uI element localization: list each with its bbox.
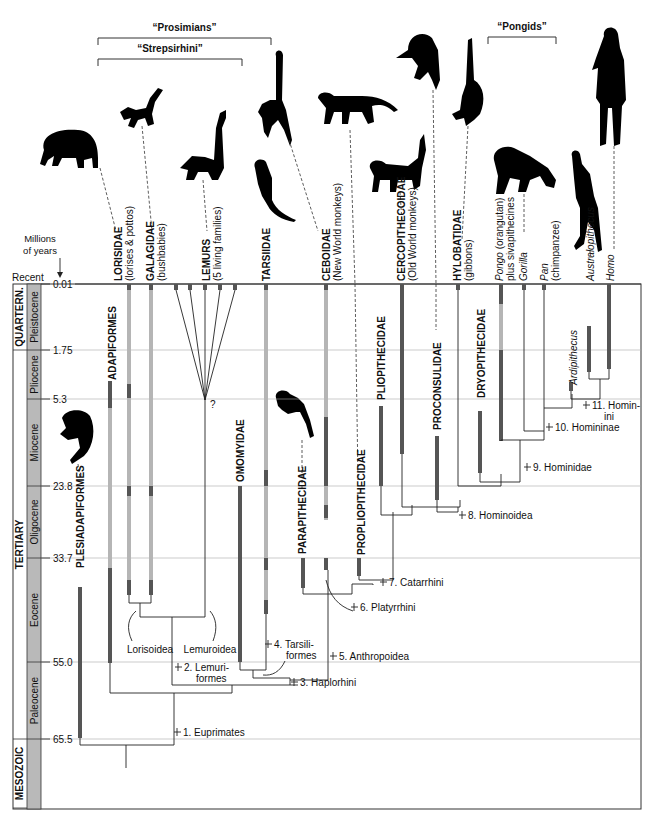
epoch-label: Eocene — [29, 593, 40, 627]
taxon-label: TARSIIDAE — [261, 228, 272, 281]
recent-label: Recent — [12, 272, 44, 283]
plesiadapiform-silhouette — [60, 410, 93, 464]
tick-label: 65.5 — [53, 734, 73, 745]
superfamily-labels: LorisoideaLemuroidea — [127, 644, 237, 655]
taxon-label: PROPLIOPITHECIDAE — [356, 449, 367, 555]
clade-label-cont: formes — [286, 650, 317, 661]
clade-label-cont: formes — [196, 673, 227, 684]
superfamily-label: Lemuroidea — [184, 644, 237, 655]
taxon-label: Pongo (orangutan)plus sivapithecines — [494, 197, 516, 281]
chimpanzee-silhouette — [494, 147, 556, 194]
axis-title: Millions — [24, 233, 56, 244]
taxon-label: Homo — [605, 254, 616, 281]
silhouette-connectors — [78, 90, 614, 488]
tarsier-silhouette — [254, 160, 296, 222]
taxon-label: Ardipithecus — [568, 330, 579, 386]
phylogenetic-tree — [80, 290, 609, 768]
tick-label: 55.0 — [53, 657, 73, 668]
new-world-monkey-silhouette — [318, 92, 398, 124]
epoch-label: Paleocene — [29, 676, 40, 724]
group-label: “Pongids” — [497, 21, 546, 32]
epoch-label: Pleistocene — [29, 291, 40, 343]
superfamily-label: Lorisoidea — [127, 644, 174, 655]
taxon-label: LORISIDAE(lorises & pottos) — [113, 206, 135, 281]
era-label: TERTIARY — [14, 519, 25, 569]
taxon-label: HYLOBATIDAE(gibbons) — [452, 209, 474, 281]
taxon-label: DRYOPITHECIDAE — [476, 309, 487, 398]
taxon-label: PARAPITHECIDAE — [297, 466, 308, 554]
clade-label-cont: ini — [604, 411, 614, 422]
taxon-label: LEMURS(5 living families) — [201, 207, 223, 281]
group-label: “Strepsirhini” — [137, 43, 203, 54]
axis-title: of years — [23, 245, 57, 256]
clade-label: 6. Platyrrhini — [360, 602, 416, 613]
clade-label: 1. Euprimates — [183, 727, 245, 738]
era-labels: QUARTERN.TERTIARYMESOZOIC — [13, 287, 27, 808]
clade-label: 11. Homin- — [592, 400, 640, 411]
taxon-label: CERCOPITHECOIDAE(Old World monkeys) — [396, 176, 418, 281]
group-bracket — [98, 59, 242, 66]
taxon-label: Australopithecus — [585, 207, 596, 282]
taxon-label: ADAPIFORMES — [107, 306, 118, 380]
proconsul-silhouette — [396, 34, 440, 90]
taxon-label: PLESIADAPIFORMES — [75, 465, 86, 568]
taxon-label: CEBOIDAE(New World monkeys) — [321, 183, 343, 281]
clade-label: 9. Hominidae — [533, 462, 592, 473]
clade-label: 10. Homininae — [555, 422, 620, 433]
clade-label: 7. Catarrhini — [389, 577, 443, 588]
tick-label: 5.3 — [53, 394, 67, 405]
hanging-monkey-silhouette — [258, 51, 292, 146]
clade-label: 5. Anthropoidea — [339, 651, 409, 662]
clade-label: 8. Hominoidea — [468, 510, 533, 521]
tick-label: 1.75 — [53, 345, 73, 356]
taxon-label: PROCONSULIDAE — [432, 342, 443, 430]
primate-phylogeny-figure: “Prosimians”“Strepsirhini”“Pongids” — [0, 0, 652, 815]
clade-label: 3. Haplorhini — [300, 677, 356, 688]
clade-label: 2. Lemuri- — [184, 662, 229, 673]
human-silhouette — [592, 27, 626, 146]
phylogeny-svg: “Prosimians”“Strepsirhini”“Pongids” — [0, 0, 652, 815]
clade-label: 4. Tarsili- — [274, 639, 314, 650]
adapiform-silhouette — [40, 130, 98, 168]
group-bracket — [488, 37, 556, 44]
galago-silhouette — [120, 88, 163, 128]
question-mark: ? — [210, 399, 216, 410]
parapithecid-silhouette — [276, 391, 314, 438]
era-label: MESOZOIC — [14, 747, 25, 800]
tick-label: 33.7 — [53, 553, 73, 564]
lemur-silhouette — [180, 110, 226, 180]
taxon-label: Gorilla — [518, 252, 529, 281]
taxon-label: GALAGIDAE(bushbabies) — [145, 221, 167, 281]
epoch-label: Pliocene — [29, 355, 40, 394]
tick-label: 0.01 — [53, 279, 73, 290]
taxon-label: OMOMYIDAE — [235, 419, 246, 482]
era-label: QUARTERN. — [14, 287, 25, 347]
taxon-label: PLIOPITHECIDAE — [376, 316, 387, 400]
tick-label: 23.8 — [53, 481, 73, 492]
taxa-header-labels: LORISIDAE(lorises & pottos)GALAGIDAE(bus… — [113, 176, 616, 282]
group-brackets: “Prosimians”“Strepsirhini”“Pongids” — [98, 21, 556, 66]
taxon-label: Pan(chimpanzee) — [539, 220, 561, 281]
epoch-label: Oligocene — [29, 499, 40, 544]
gibbon-silhouette — [452, 38, 483, 126]
epoch-label: Miocene — [29, 423, 40, 461]
group-label: “Prosimians” — [153, 22, 217, 33]
